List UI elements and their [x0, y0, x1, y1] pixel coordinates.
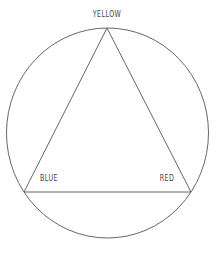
- outer-circle: [7, 28, 209, 238]
- primary-triangle: [24, 28, 191, 192]
- label-yellow: YELLOW: [92, 9, 122, 19]
- label-red: RED: [159, 173, 175, 183]
- color-wheel-diagram: [0, 0, 220, 253]
- label-blue: BLUE: [39, 173, 59, 183]
